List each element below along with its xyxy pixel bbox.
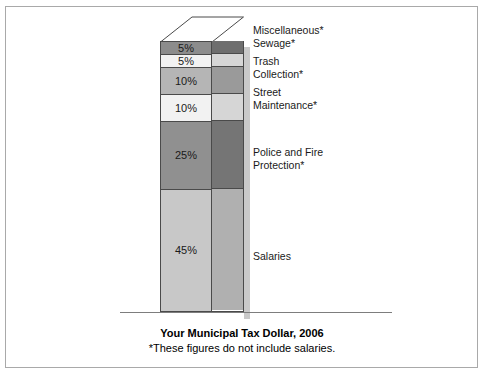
- bar-segment-trash-collection: 5%: [161, 55, 211, 68]
- chart-caption: Your Municipal Tax Dollar, 2006 *These f…: [0, 326, 484, 356]
- bar-side-segment-unlabeled: [212, 94, 243, 121]
- category-label-street-maintenance: Street Maintenance*: [253, 86, 317, 112]
- bar-side-segment-misc-sewage: [212, 41, 243, 54]
- bar-drop-shadow: [244, 47, 250, 319]
- stacked-bar-3d: 5% 5% 10% 10% 25% 45%: [160, 16, 250, 312]
- bar-segment-value: 5%: [178, 43, 194, 54]
- bar-segment-value: 25%: [175, 150, 197, 161]
- category-label-police-fire: Police and Fire Protection*: [253, 146, 323, 172]
- bar-segment-police-fire: 25%: [161, 122, 211, 190]
- bar-segment-misc-sewage: 5%: [161, 42, 211, 55]
- bar-segment-value: 5%: [178, 56, 194, 67]
- bar-side-segment-police-fire: [212, 121, 243, 189]
- bar-segment-street-maintenance: 10%: [161, 68, 211, 95]
- bar-front-face: 5% 5% 10% 10% 25% 45%: [160, 41, 212, 312]
- chart-baseline: [120, 312, 392, 313]
- bar-segment-unlabeled: 10%: [161, 95, 211, 122]
- bar-segment-value: 10%: [175, 76, 197, 87]
- category-label-misc-sewage: Miscellaneous* Sewage*: [253, 24, 324, 50]
- bar-side-segment-trash-collection: [212, 54, 243, 67]
- chart-figure: 5% 5% 10% 10% 25% 45%: [0, 0, 484, 374]
- chart-footnote: *These figures do not include salaries.: [0, 341, 484, 356]
- bar-segment-salaries: 45%: [161, 190, 211, 311]
- bar-top-face: [160, 16, 244, 42]
- bar-side-segment-salaries: [212, 189, 243, 310]
- category-label-trash-collection: Trash Collection*: [253, 55, 303, 81]
- category-label-salaries: Salaries: [253, 250, 291, 263]
- bar-segment-value: 10%: [175, 103, 197, 114]
- bar-side-face: [212, 41, 244, 312]
- bar-segment-value: 45%: [175, 245, 197, 256]
- chart-title: Your Municipal Tax Dollar, 2006: [0, 326, 484, 341]
- bar-side-segment-street-maintenance: [212, 67, 243, 94]
